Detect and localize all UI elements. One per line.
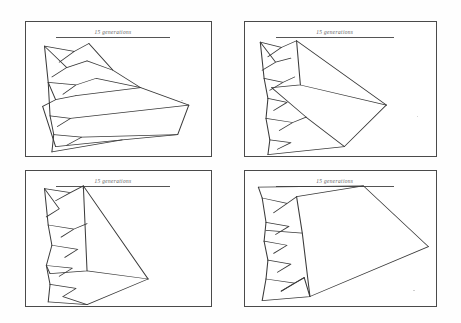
tree-diagram-top-right xyxy=(245,22,436,156)
figure-sheet: 15 generations 15 generations 15 generat… xyxy=(0,0,461,323)
panel-bottom-left: 15 generations xyxy=(25,170,212,307)
tree-diagram-bottom-right xyxy=(245,171,436,306)
panel-bottom-right: 15 generations xyxy=(244,170,437,307)
panel-top-right: 15 generations xyxy=(244,21,437,157)
tree-diagram-top-left xyxy=(26,22,211,156)
panel-top-left: 15 generations xyxy=(25,21,212,157)
tree-diagram-bottom-left xyxy=(26,171,211,306)
